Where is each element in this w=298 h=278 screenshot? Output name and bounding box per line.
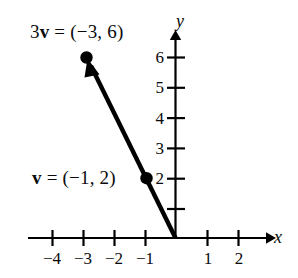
label-scaled-vector: 3v = (−3, 6) — [30, 22, 124, 41]
x-tick-label-neg4: −4 — [40, 250, 64, 267]
x-tick-label-1: 1 — [196, 250, 220, 267]
label-base-vector-components: −1, 2 — [69, 167, 109, 188]
x-tick-label-neg1: −1 — [133, 250, 157, 267]
y-tick-label-4: 4 — [148, 110, 164, 127]
label-base-vector-symbol: v — [32, 167, 42, 188]
vector-diagram-figure: 3v = (−3, 6) v = (−1, 2) y x 6 5 4 3 2 −… — [0, 0, 298, 278]
x-tick-label-2: 2 — [227, 250, 251, 267]
y-tick-label-2: 2 — [148, 170, 164, 187]
label-scaled-vector-components: −3, 6 — [77, 21, 117, 42]
x-axis-label: x — [274, 228, 282, 246]
y-tick-label-3: 3 — [148, 140, 164, 157]
y-tick-label-5: 5 — [148, 79, 164, 96]
label-scaled-vector-equals: = ( — [49, 21, 76, 42]
y-axis-arrowhead — [170, 30, 181, 40]
label-base-vector-close: ) — [109, 167, 116, 188]
label-scaled-vector-prefix: 3 — [30, 21, 40, 42]
x-tick-label-neg2: −2 — [102, 250, 126, 267]
y-axis-label: y — [176, 12, 184, 30]
label-scaled-vector-close: ) — [117, 21, 124, 42]
label-scaled-vector-symbol: v — [40, 21, 50, 42]
y-tick-label-6: 6 — [148, 49, 164, 66]
label-base-vector-equals: = ( — [42, 167, 69, 188]
label-base-vector: v = (−1, 2) — [32, 168, 116, 187]
x-tick-label-neg3: −3 — [71, 250, 95, 267]
point-3v — [80, 51, 92, 63]
